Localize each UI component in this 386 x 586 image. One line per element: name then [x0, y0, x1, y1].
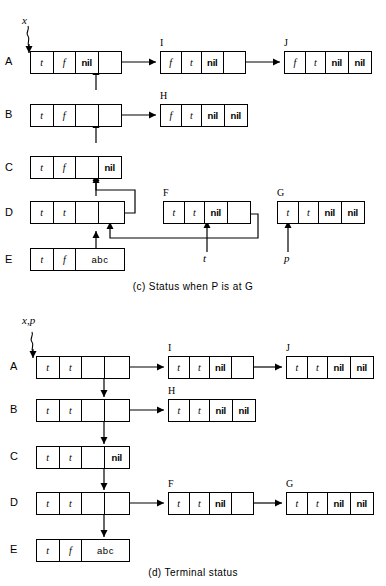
- node-i-cell-4: [224, 52, 245, 73]
- node-b-d-cell-3: [82, 400, 105, 421]
- node-label-j-d: J: [286, 342, 290, 353]
- row-label-b: B: [5, 108, 12, 120]
- node-f-cell-3: nil: [205, 202, 227, 223]
- node-label-f: F: [163, 187, 169, 198]
- node-d-cell-3: [76, 202, 99, 223]
- node-f-d[interactable]: t t nil: [168, 492, 254, 515]
- node-a-d-cell-2: t: [60, 357, 83, 378]
- node-f[interactable]: t t nil: [163, 201, 251, 224]
- node-g-d-cell-3: nil: [328, 493, 350, 514]
- figure-page: x A B C D E t f nil t f t f nil t: [0, 0, 386, 586]
- node-j-d-cell-3: nil: [328, 357, 350, 378]
- panel-d-var-xp: x,p: [22, 314, 35, 326]
- node-e[interactable]: t f abc: [30, 248, 125, 271]
- node-d-d-cell-4: [105, 493, 129, 514]
- node-f-d-cell-4: [232, 493, 253, 514]
- node-g-cell-2: t: [299, 202, 320, 223]
- node-f-cell-1: t: [164, 202, 185, 223]
- node-h-cell-3: nil: [202, 105, 224, 126]
- panel-d: x,p A B C D E t t t t t t nil t t: [0, 300, 386, 586]
- node-f-d-cell-3: nil: [210, 493, 232, 514]
- node-a-cell-2: f: [54, 52, 77, 73]
- node-b[interactable]: t f: [30, 104, 122, 127]
- node-d-d[interactable]: t t: [36, 492, 130, 515]
- node-c-d[interactable]: t t nil: [36, 446, 130, 469]
- node-g-cell-3: nil: [319, 202, 341, 223]
- node-a-d[interactable]: t t: [36, 356, 130, 379]
- row-label-e: E: [5, 253, 12, 265]
- node-a-d-cell-4: [105, 357, 129, 378]
- node-i-d-cell-4: [232, 357, 253, 378]
- node-b-d-cell-2: t: [60, 400, 83, 421]
- caption-d: (d) Terminal status: [0, 567, 386, 578]
- node-label-h-d: H: [168, 385, 175, 396]
- node-e-d-cell-1: t: [37, 540, 60, 561]
- node-a-cell-4: [99, 52, 121, 73]
- node-j-cell-4: nil: [349, 52, 371, 73]
- node-g-d-cell-2: t: [308, 493, 329, 514]
- node-j-d-cell-1: t: [287, 357, 308, 378]
- node-c-cell-4: nil: [99, 157, 121, 178]
- node-j[interactable]: f t nil nil: [284, 51, 372, 74]
- node-a-cell-3: nil: [76, 52, 99, 73]
- node-i[interactable]: f t nil: [160, 51, 246, 74]
- node-b-d[interactable]: t t: [36, 399, 130, 422]
- node-g-cell-1: t: [278, 202, 299, 223]
- node-d-cell-1: t: [31, 202, 54, 223]
- node-label-f-d: F: [168, 478, 174, 489]
- node-d-d-cell-1: t: [37, 493, 60, 514]
- node-label-h: H: [160, 90, 167, 101]
- node-j-cell-1: f: [285, 52, 306, 73]
- node-d-cell-2: t: [54, 202, 77, 223]
- node-b-cell-4: [99, 105, 121, 126]
- node-g-d[interactable]: t t nil nil: [286, 492, 374, 515]
- node-h[interactable]: f t nil nil: [160, 104, 248, 127]
- node-c[interactable]: t f nil: [30, 156, 122, 179]
- pointer-label-t: t: [203, 252, 206, 264]
- node-e-d[interactable]: t f abc: [36, 539, 130, 562]
- node-e-d-cell-2: f: [60, 540, 83, 561]
- node-g[interactable]: t t nil nil: [277, 201, 365, 224]
- node-d[interactable]: t t: [30, 201, 125, 224]
- node-g-cell-4: nil: [342, 202, 364, 223]
- node-i-d-cell-1: t: [169, 357, 190, 378]
- node-i-d[interactable]: t t nil: [168, 356, 254, 379]
- node-b-d-cell-1: t: [37, 400, 60, 421]
- node-h-d-cell-3: nil: [210, 400, 232, 421]
- node-i-d-cell-3: nil: [210, 357, 232, 378]
- node-c-d-cell-1: t: [37, 447, 60, 468]
- node-j-d-cell-4: nil: [351, 357, 373, 378]
- node-h-d-cell-4: nil: [233, 400, 255, 421]
- node-c-d-cell-3: [82, 447, 105, 468]
- node-h-d[interactable]: t t nil nil: [168, 399, 256, 422]
- node-b-cell-2: f: [54, 105, 77, 126]
- node-b-cell-3: [76, 105, 99, 126]
- node-i-cell-1: f: [161, 52, 182, 73]
- node-a[interactable]: t f nil: [30, 51, 122, 74]
- node-h-d-cell-2: t: [190, 400, 211, 421]
- row-label-e-d: E: [10, 543, 17, 555]
- node-a-d-cell-1: t: [37, 357, 60, 378]
- panel-c: x A B C D E t f nil t f t f nil t: [0, 0, 386, 300]
- node-label-i: I: [160, 37, 163, 48]
- node-a-d-cell-3: [82, 357, 105, 378]
- node-label-j: J: [284, 37, 288, 48]
- node-f-cell-2: t: [185, 202, 206, 223]
- node-j-d[interactable]: t t nil nil: [286, 356, 374, 379]
- panel-c-var-x: x: [22, 14, 27, 26]
- row-label-c-d: C: [10, 450, 18, 462]
- node-g-d-cell-4: nil: [351, 493, 373, 514]
- node-label-g-d: G: [286, 478, 293, 489]
- node-c-d-cell-2: t: [60, 447, 83, 468]
- node-h-d-cell-1: t: [169, 400, 190, 421]
- node-e-cell-3: abc: [76, 249, 124, 270]
- node-c-cell-3: [76, 157, 99, 178]
- node-label-g: G: [277, 187, 284, 198]
- node-c-cell-1: t: [31, 157, 54, 178]
- node-c-d-cell-4: nil: [105, 447, 129, 468]
- pointer-label-p: p: [284, 252, 290, 264]
- caption-c: (c) Status when P is at G: [0, 281, 386, 292]
- node-h-cell-1: f: [161, 105, 182, 126]
- node-d-d-cell-2: t: [60, 493, 83, 514]
- node-c-cell-2: f: [54, 157, 77, 178]
